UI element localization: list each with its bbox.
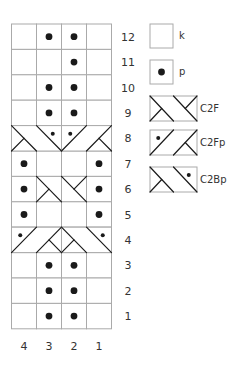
chart-cell [12, 253, 37, 278]
row-label: 3 [125, 259, 132, 272]
svg-text:C2Fp: C2Fp [200, 137, 225, 148]
row-label: 8 [125, 132, 132, 145]
chart-cell [87, 176, 112, 201]
row-label: 6 [125, 183, 132, 196]
chart-cell [37, 100, 62, 125]
column-label: 1 [96, 340, 103, 353]
chart-cell [12, 100, 37, 125]
legend-item-c2f: C2F [150, 96, 219, 121]
chart-cell [62, 49, 87, 74]
column-label: 2 [71, 340, 78, 353]
chart-cell [87, 151, 112, 176]
cable-c2fp-symbol [62, 126, 112, 151]
row-label: 1 [125, 310, 132, 323]
chart-cell [12, 303, 37, 328]
svg-text:k: k [179, 30, 185, 41]
chart-cell [12, 278, 37, 303]
cable-c2bp-symbol [12, 126, 62, 151]
chart-cell [12, 24, 37, 49]
row-label: 4 [125, 234, 132, 247]
column-labels: 4321 [21, 340, 103, 353]
chart-cell [62, 75, 87, 100]
legend: kpC2FC2FpC2Bp [150, 24, 227, 192]
chart-cell [12, 75, 37, 100]
chart-cell [12, 151, 37, 176]
chart-cell [37, 24, 62, 49]
row-labels: 121110987654321 [121, 31, 135, 323]
legend-item-k: k [150, 24, 185, 48]
column-label: 4 [21, 340, 28, 353]
chart-cell [12, 176, 37, 201]
row-label: 9 [125, 107, 132, 120]
chart-cell [62, 100, 87, 125]
chart-cell [87, 75, 112, 100]
chart-cell [62, 253, 87, 278]
chart-cell [87, 24, 112, 49]
chart-cell [37, 278, 62, 303]
svg-text:C2F: C2F [200, 103, 219, 114]
legend-item-c2bp: C2Bp [150, 167, 227, 192]
chart-cell [37, 202, 62, 227]
chart-cell [12, 202, 37, 227]
chart-cell [87, 202, 112, 227]
knitting-chart: 121110987654321 4321 kpC2FC2FpC2Bp [0, 0, 237, 367]
row-label: 11 [121, 56, 135, 69]
cable-c2fp-symbol [12, 227, 62, 252]
chart-cell [62, 278, 87, 303]
chart-grid [12, 24, 112, 329]
chart-cell [37, 75, 62, 100]
row-label: 2 [125, 285, 132, 298]
chart-cell [87, 49, 112, 74]
chart-cell [62, 24, 87, 49]
chart-cell [87, 253, 112, 278]
legend-item-p: p [150, 60, 185, 84]
chart-cell [12, 49, 37, 74]
legend-item-c2fp: C2Fp [150, 130, 225, 155]
chart-cell [37, 151, 62, 176]
chart-cell [37, 49, 62, 74]
row-label: 7 [125, 158, 132, 171]
chart-cell [87, 100, 112, 125]
chart-cell [62, 202, 87, 227]
chart-cell [62, 303, 87, 328]
row-label: 12 [121, 31, 135, 44]
chart-cell [87, 278, 112, 303]
chart-cell [37, 253, 62, 278]
chart-cell [62, 151, 87, 176]
cable-c2bp-symbol [62, 227, 112, 252]
chart-cell [87, 303, 112, 328]
row-label: 5 [125, 209, 132, 222]
svg-text:p: p [179, 66, 185, 77]
chart-cell [37, 303, 62, 328]
column-label: 3 [46, 340, 53, 353]
row-label: 10 [121, 82, 135, 95]
svg-text:C2Bp: C2Bp [200, 174, 227, 185]
